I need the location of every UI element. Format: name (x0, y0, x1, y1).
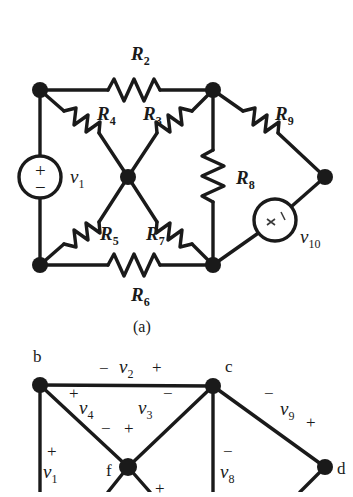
wire-r9-to-right (278, 133, 325, 177)
polarity-minus-v2: − (99, 360, 109, 377)
resistor-label-r5: R5 (100, 224, 119, 247)
polarity-plus-v1-graph: + (47, 443, 57, 460)
node-dot-center (120, 169, 136, 185)
resistor-r6 (108, 254, 160, 276)
branch-label-v1-graph: v1 (43, 462, 57, 485)
resistor-r5-name: R (100, 223, 113, 244)
resistor-label-r2: R2 (131, 44, 150, 67)
resistor-r7-name: R (146, 223, 159, 244)
wire-center-to-r7 (128, 177, 157, 222)
node-label-c: c (225, 358, 233, 375)
node-dot-b (32, 377, 48, 393)
source-v10-label: v10 (300, 227, 320, 250)
resistor-r2-subscript: 2 (144, 54, 150, 68)
branch-label-v4: v4 (79, 398, 93, 421)
node-label-f: f (106, 462, 112, 479)
source-v1-minus-sign: − (35, 178, 46, 197)
node-label-b: b (33, 348, 42, 365)
resistor-r8-subscript: 8 (249, 178, 255, 192)
branch-v3-subscript: 3 (146, 408, 152, 422)
branch-v2-subscript: 2 (127, 367, 133, 381)
resistor-r3-name: R (143, 103, 156, 124)
resistor-r7-subscript: 7 (159, 234, 165, 248)
resistor-label-r6: R6 (131, 285, 150, 308)
source-v1-subscript: 1 (78, 177, 84, 191)
resistor-r8-name: R (236, 167, 249, 188)
resistor-label-r9: R9 (275, 104, 294, 127)
node-label-d: d (337, 460, 346, 477)
wire-r5-to-center (99, 177, 128, 222)
resistor-r4 (64, 108, 100, 133)
node-dot-d (317, 459, 333, 475)
resistor-r5-subscript: 5 (113, 234, 119, 248)
branch-v8-subscript: 8 (228, 472, 234, 486)
branch-v4-subscript: 4 (87, 408, 93, 422)
source-v10-subscript: 10 (308, 237, 320, 251)
node-dot-bottom-right (205, 257, 221, 273)
polarity-minus-v3: − (163, 385, 173, 402)
node-dot-c (205, 378, 221, 394)
polarity-minus-v9: − (264, 385, 274, 402)
source-v1-label: v1 (70, 167, 84, 190)
node-dot-top-left (32, 82, 48, 98)
resistor-label-r8: R8 (236, 168, 255, 191)
branch-label-v9: v9 (280, 399, 294, 422)
resistor-r6-name: R (131, 284, 144, 305)
polarity-plus-below-f: + (155, 480, 165, 497)
node-dot-f (119, 458, 137, 476)
branch-label-v2: v2 (119, 357, 133, 380)
polarity-plus-v2: + (152, 359, 162, 376)
polarity-minus-v8: − (223, 443, 233, 460)
resistor-r2 (108, 79, 160, 101)
resistor-r9 (243, 108, 279, 133)
node-dot-bottom-left (32, 257, 48, 273)
circuit-schematic-a (0, 0, 353, 340)
resistor-label-r3: R3 (143, 104, 162, 127)
resistor-r3-subscript: 3 (156, 114, 162, 128)
resistor-r8 (202, 150, 224, 202)
polarity-plus-v3: + (124, 420, 134, 437)
node-dot-top-right (205, 82, 221, 98)
resistor-r9-name: R (275, 103, 288, 124)
resistor-label-r4: R4 (97, 104, 116, 127)
branch-label-v3: v3 (138, 398, 152, 421)
resistor-label-r7: R7 (146, 224, 165, 247)
resistor-r5 (64, 222, 100, 247)
resistor-r6-subscript: 6 (144, 295, 150, 309)
polarity-plus-v4: + (69, 385, 79, 402)
branch-label-v8: v8 (220, 462, 234, 485)
polarity-plus-v9: + (306, 414, 316, 431)
node-dot-far-right (317, 169, 333, 185)
resistor-r2-name: R (131, 43, 144, 64)
branch-v9-subscript: 9 (288, 409, 294, 423)
resistor-r9-subscript: 9 (288, 114, 294, 128)
branch-v1-subscript: 1 (51, 472, 57, 486)
resistor-r4-name: R (97, 103, 110, 124)
edge-b-to-c (40, 385, 213, 386)
resistor-r4-subscript: 4 (110, 114, 116, 128)
wire-br-to-source10 (213, 234, 257, 265)
polarity-minus-v4: − (101, 420, 111, 437)
figure-caption-a: (a) (133, 319, 151, 335)
